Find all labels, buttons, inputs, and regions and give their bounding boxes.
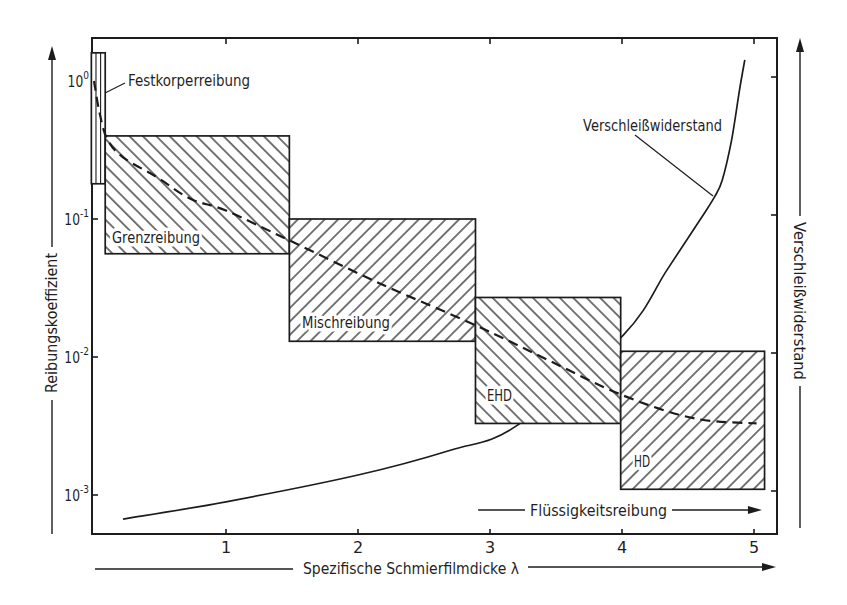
festkoerper-leader-line [105,83,125,93]
y-tick-label-exponent: -3 [80,483,89,495]
x-tick-label: 3 [485,538,495,557]
mischreibung-label: Mischreibung [302,313,390,332]
fluessigkeitsreibung-range-arrow: Flüssigkeitsreibung [478,501,762,520]
right-axis-title-group: Verschleißwiderstand [790,38,809,528]
region-festkoerperreibung [91,53,105,184]
verschleiss-leader-line [635,135,713,196]
y-tick-label-exponent: -1 [80,207,89,219]
x-axis-title: Spezifische Schmierfilmdicke λ [303,559,519,578]
tribology-chart: 10010-110-210-312345 Festkorperreibung G… [0,0,847,605]
grenzreibung-label: Grenzreibung [112,228,200,247]
y-tick-label-base: 10 [64,487,80,504]
up-arrow-icon [48,46,56,60]
left-axis-title-group: Reibungskoeffizient [42,46,61,534]
y-tick-label-exponent: 0 [83,69,89,81]
festkoerperreibung-label: Festkorperreibung [128,71,250,90]
left-axis-title: Reibungskoeffizient [42,253,61,393]
hd-label: HD [634,452,650,471]
x-tick-label: 1 [221,538,231,557]
y-tick-label: 10-3 [64,483,89,504]
up-arrow-icon [796,38,804,52]
y-tick-label: 100 [68,69,89,90]
x-tick-label: 5 [749,538,759,557]
right-axis-title: Verschleißwiderstand [790,222,809,380]
fluessigkeitsreibung-label: Flüssigkeitsreibung [530,501,667,520]
y-tick-label-exponent: -2 [80,345,89,357]
x-axis-title-group: Spezifische Schmierfilmdicke λ [95,559,776,578]
region-fill [91,53,105,184]
x-tick-label: 4 [617,538,627,557]
right-arrow-icon [748,506,762,514]
x-tick-label: 2 [353,538,363,557]
y-tick-label-base: 10 [64,349,80,366]
y-tick-label: 10-2 [64,345,89,366]
y-tick-label-base: 10 [64,211,80,228]
ehd-label: EHD [487,386,512,405]
y-tick-label: 10-1 [64,207,89,228]
verschleisswiderstand-curve-label: Verschleißwiderstand [583,116,722,135]
y-tick-label-base: 10 [68,73,84,90]
right-arrow-icon [762,563,776,571]
